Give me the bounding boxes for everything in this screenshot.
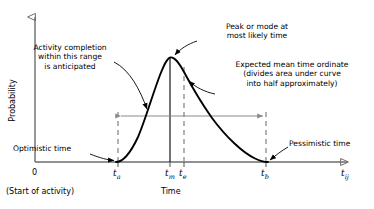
pessimistic-leader-arrow (270, 147, 288, 160)
tick-label-tm: tm (165, 168, 175, 181)
tick-label-te: te (179, 168, 186, 181)
x-axis-label: Time (161, 187, 181, 196)
y-axis-label: Probability (8, 68, 17, 134)
range-leader-arrow (114, 62, 147, 109)
annotation-range: Activity completion within this range is… (22, 43, 118, 71)
pert-distribution-figure: Probability Peak or mode at most likely … (0, 0, 374, 209)
x-axis-variable-label: tij (341, 168, 349, 181)
start-of-activity-note: (Start of activity) (6, 187, 74, 196)
annotation-pessimistic: Pessimistic time (289, 139, 350, 148)
peak-leader-arrow (175, 41, 197, 55)
tick-label-ta: ta (113, 168, 121, 181)
optimistic-leader-arrow (90, 154, 114, 161)
tick-label-tb: tb (261, 168, 269, 181)
annotation-mean: Expected mean time ordinate (divides are… (212, 60, 372, 88)
annotation-peak: Peak or mode at most likely time (196, 22, 318, 41)
annotation-optimistic: Optimistic time (13, 144, 71, 153)
origin-label: 0 (32, 168, 37, 177)
